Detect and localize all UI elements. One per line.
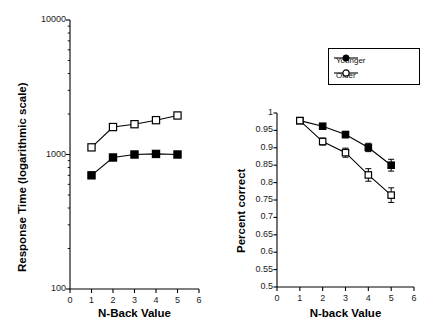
right-datapoint-older-n3 xyxy=(342,149,348,155)
right-datapoint-older-n1 xyxy=(297,117,303,123)
legend: Younger Older xyxy=(328,48,420,85)
left-datapoint-younger-n3 xyxy=(131,151,138,158)
right-y-tick-0.6: 0.6 xyxy=(237,246,273,256)
legend-item-younger: Younger xyxy=(333,52,366,68)
right-x-tick-5: 5 xyxy=(379,293,403,303)
right-y-tick-0.95: 0.95 xyxy=(237,124,273,134)
left-datapoint-younger-n2 xyxy=(109,154,116,161)
right-x-tick-2: 2 xyxy=(311,293,335,303)
left-y-tick-10000: 10000 xyxy=(28,14,66,24)
left-x-tick-1: 1 xyxy=(80,295,104,305)
left-datapoint-older-n2 xyxy=(109,123,116,130)
right-y-tick-0.85: 0.85 xyxy=(237,159,273,169)
right-y-tick-0.7: 0.7 xyxy=(237,211,273,221)
right-datapoint-younger-n2 xyxy=(319,123,325,129)
right-x-tick-6: 6 xyxy=(402,293,426,303)
legend-item-older: Older xyxy=(333,67,356,83)
right-datapoint-older-n2 xyxy=(319,138,325,144)
left-plot-canvas xyxy=(0,0,215,328)
panel-response-time: Response Time (logarithmic scale) N-Back… xyxy=(0,0,215,328)
right-y-tick-1: 1 xyxy=(237,107,273,117)
left-x-tick-2: 2 xyxy=(101,295,125,305)
left-x-tick-3: 3 xyxy=(123,295,147,305)
left-x-tick-0: 0 xyxy=(58,295,82,305)
right-x-tick-4: 4 xyxy=(356,293,380,303)
right-datapoint-younger-n4 xyxy=(365,144,371,150)
right-y-tick-0.5: 0.5 xyxy=(237,281,273,291)
left-datapoint-older-n1 xyxy=(88,144,95,151)
right-datapoint-younger-n5 xyxy=(388,162,394,168)
right-x-tick-0: 0 xyxy=(265,293,289,303)
right-datapoint-older-n5 xyxy=(388,192,394,198)
right-y-tick-0.65: 0.65 xyxy=(237,229,273,239)
left-x-tick-5: 5 xyxy=(166,295,190,305)
right-y-tick-0.9: 0.9 xyxy=(237,142,273,152)
legend-marker-older-icon xyxy=(333,67,359,79)
right-y-tick-0.75: 0.75 xyxy=(237,194,273,204)
left-datapoint-older-n3 xyxy=(131,121,138,128)
left-datapoint-younger-n5 xyxy=(174,151,181,158)
right-y-tick-0.55: 0.55 xyxy=(237,264,273,274)
right-datapoint-older-n4 xyxy=(365,172,371,178)
left-datapoint-older-n5 xyxy=(174,112,181,119)
right-datapoint-younger-n3 xyxy=(342,131,348,137)
left-datapoint-older-n4 xyxy=(152,117,159,124)
left-datapoint-younger-n4 xyxy=(152,150,159,157)
left-datapoint-younger-n1 xyxy=(88,172,95,179)
left-y-tick-1000: 1000 xyxy=(28,149,66,159)
legend-marker-younger-icon xyxy=(333,52,359,64)
figure-two-panel-nback: Response Time (logarithmic scale) N-Back… xyxy=(0,0,429,328)
left-x-tick-6: 6 xyxy=(187,295,211,305)
right-y-tick-0.8: 0.8 xyxy=(237,177,273,187)
right-x-tick-1: 1 xyxy=(288,293,312,303)
left-x-tick-4: 4 xyxy=(144,295,168,305)
left-y-tick-100: 100 xyxy=(28,283,66,293)
right-x-tick-3: 3 xyxy=(334,293,358,303)
